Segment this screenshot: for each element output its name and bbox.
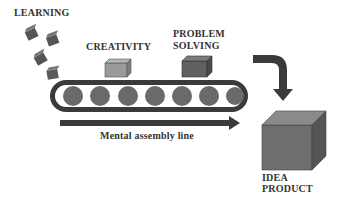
label-solving: SOLVING (173, 40, 220, 52)
bent-arrow-icon (253, 59, 293, 101)
learning-cubes (24, 24, 63, 80)
label-learning: LEARNING (14, 7, 70, 19)
label-creativity: CREATIVITY (86, 41, 151, 53)
conveyor-belt (50, 80, 248, 112)
problem-solving-box (182, 56, 212, 77)
assembly-line-arrow (60, 116, 240, 130)
label-problem: PROBLEM (173, 28, 225, 40)
label-product: PRODUCT (262, 183, 313, 195)
label-assembly-line: Mental assembly line (100, 130, 194, 142)
creativity-box (105, 59, 131, 77)
idea-product-box (262, 111, 326, 170)
